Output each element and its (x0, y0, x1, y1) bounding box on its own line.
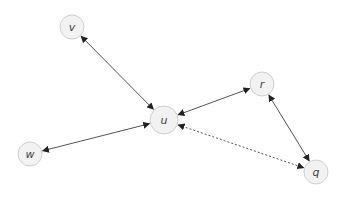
edge-w-u (43, 124, 150, 151)
edge-u-q (178, 125, 304, 168)
node-u: u (150, 106, 178, 134)
graph-diagram: vurqw (0, 0, 344, 198)
node-v: v (60, 15, 84, 39)
node-label: v (69, 21, 76, 34)
node-label: w (26, 148, 35, 161)
node-label: q (313, 166, 320, 179)
edges-layer (43, 36, 310, 168)
node-q: q (304, 160, 328, 184)
edge-v-u (81, 36, 153, 109)
edge-u-r (178, 88, 250, 114)
node-r: r (250, 72, 274, 96)
graph-canvas: vurqw (0, 0, 344, 198)
edge-r-q (269, 95, 309, 161)
nodes-layer: vurqw (18, 15, 328, 184)
node-w: w (18, 142, 42, 166)
node-label: u (161, 114, 168, 127)
